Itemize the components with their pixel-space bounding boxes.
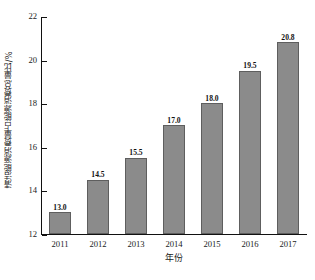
y-axis-tick-label: 22 bbox=[28, 11, 37, 22]
y-axis-tick-mark bbox=[42, 61, 47, 62]
bar[interactable]: 20.8 bbox=[277, 42, 299, 234]
y-axis-line bbox=[41, 17, 42, 235]
bar[interactable]: 18.0 bbox=[201, 103, 223, 234]
bar-value-label: 19.5 bbox=[243, 61, 256, 70]
y-axis-tick: 14 bbox=[41, 191, 47, 192]
y-axis-tick: 20 bbox=[41, 61, 47, 62]
x-axis-tick-label: 2017 bbox=[279, 239, 296, 250]
bar[interactable]: 17.0 bbox=[163, 125, 185, 234]
x-axis-tick-label: 2015 bbox=[203, 239, 220, 250]
x-axis-tick-label: 2011 bbox=[52, 239, 69, 250]
bar-value-label: 13.0 bbox=[53, 203, 66, 212]
bar-value-label: 18.0 bbox=[205, 94, 218, 103]
bar-value-label: 20.8 bbox=[281, 33, 294, 42]
x-axis-title: 年份 bbox=[41, 252, 307, 264]
bar[interactable]: 13.0 bbox=[49, 212, 71, 234]
x-axis-line bbox=[41, 234, 307, 235]
y-axis-tick-mark bbox=[42, 148, 47, 149]
y-axis-title: 清洁能源消费量占能源消费总量比/% bbox=[5, 51, 13, 188]
y-axis-tick: 22 bbox=[41, 17, 47, 18]
x-axis-tick-label: 2012 bbox=[89, 239, 106, 250]
x-axis-tick-label: 2014 bbox=[165, 239, 182, 250]
y-axis-tick-label: 20 bbox=[28, 55, 37, 66]
bar[interactable]: 15.5 bbox=[125, 158, 147, 234]
y-axis-tick-label: 16 bbox=[28, 142, 37, 153]
y-axis-tick-mark bbox=[42, 104, 47, 105]
x-axis-tick-label: 2013 bbox=[127, 239, 144, 250]
y-axis-tick-mark bbox=[42, 17, 47, 18]
bar-value-label: 17.0 bbox=[167, 116, 180, 125]
bar-chart-figure: 清洁能源消费量占能源消费总量比/% 121416182022 13.014.51… bbox=[0, 0, 315, 280]
bar[interactable]: 14.5 bbox=[87, 180, 109, 235]
y-axis-tick-label: 18 bbox=[28, 98, 37, 109]
y-axis-tick-mark bbox=[42, 235, 47, 236]
x-axis-tick-label: 2016 bbox=[241, 239, 258, 250]
plot-area: 121416182022 13.014.515.517.018.019.520.… bbox=[41, 17, 307, 235]
y-axis-tick-label: 12 bbox=[28, 229, 37, 240]
bar[interactable]: 19.5 bbox=[239, 71, 261, 235]
y-axis-tick-mark bbox=[42, 191, 47, 192]
y-axis-tick-label: 14 bbox=[28, 185, 37, 196]
y-axis-title-container: 清洁能源消费量占能源消费总量比/% bbox=[0, 0, 18, 240]
y-axis-tick: 18 bbox=[41, 104, 47, 105]
bar-value-label: 15.5 bbox=[129, 148, 142, 157]
bar-value-label: 14.5 bbox=[91, 170, 104, 179]
y-axis-tick: 12 bbox=[41, 235, 47, 236]
y-axis-tick: 16 bbox=[41, 148, 47, 149]
